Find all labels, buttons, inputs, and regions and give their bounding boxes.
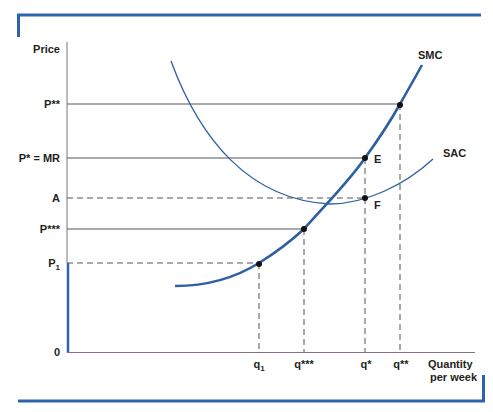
figure-frame: [17, 14, 485, 402]
point-q2-p2: [397, 102, 403, 108]
y-label-p-triple-star: P***: [40, 223, 61, 235]
x-label-q1: q1: [253, 358, 265, 373]
y-label-p1: P1: [48, 257, 60, 272]
y-label-p-star-mr: P* = MR: [19, 152, 60, 164]
x-label-q-triple-star: q***: [294, 358, 314, 370]
point-f: [362, 195, 368, 201]
smc-curve: [175, 65, 422, 286]
q1-main: q: [253, 358, 260, 370]
p1-main: P: [48, 257, 55, 269]
quantity-guides: [259, 104, 400, 352]
q1-sub: 1: [260, 364, 265, 373]
origin-label: 0: [54, 346, 60, 358]
y-label-a: A: [52, 192, 60, 204]
p1-sub: 1: [56, 263, 61, 272]
x-axis-title-line2: per week: [430, 371, 478, 383]
point-e-label: E: [374, 153, 381, 165]
smc-label: SMC: [418, 49, 443, 61]
cost-curves-chart: Price P** P* = MR A P*** P1 0 q1 q*** q*…: [0, 0, 493, 412]
point-q1-p1: [256, 261, 262, 267]
sac-curve: [171, 61, 433, 204]
x-label-q-double-star: q**: [393, 358, 409, 370]
y-label-p-double-star: P**: [44, 98, 61, 110]
point-f-label: F: [374, 199, 381, 211]
sac-label: SAC: [443, 147, 466, 159]
y-axis-title: Price: [33, 43, 60, 55]
point-e: [362, 155, 368, 161]
price-guides: [67, 104, 400, 263]
x-label-q-star: q*: [361, 358, 373, 370]
point-q3-p3: [301, 226, 307, 232]
equilibrium-points: [256, 102, 403, 267]
x-axis-title-line1: Quantity: [428, 358, 473, 370]
